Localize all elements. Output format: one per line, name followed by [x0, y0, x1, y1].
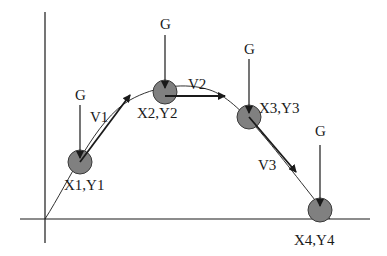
ball-label-3: X3,Y3: [259, 100, 299, 116]
balls-layer: X1,Y1X2,Y2X3,Y3X4,Y4: [64, 80, 335, 248]
velocity-label-3: V3: [258, 157, 276, 173]
gravity-label-3: G: [244, 41, 255, 57]
gravity-label-2: G: [160, 16, 171, 32]
velocity-arrow-1: [80, 95, 130, 162]
ball-label-4: X4,Y4: [294, 232, 335, 248]
velocity-arrows-layer: V1V2V3: [80, 76, 296, 173]
velocity-label-1: V1: [90, 109, 108, 125]
velocity-label-2: V2: [188, 76, 206, 92]
ball-label-1: X1,Y1: [64, 177, 104, 193]
gravity-label-4: G: [315, 123, 326, 139]
gravity-label-1: G: [75, 87, 86, 103]
ball-label-2: X2,Y2: [137, 105, 177, 121]
projectile-diagram: X1,Y1X2,Y2X3,Y3X4,Y4 GGGG V1V2V3: [0, 0, 387, 256]
